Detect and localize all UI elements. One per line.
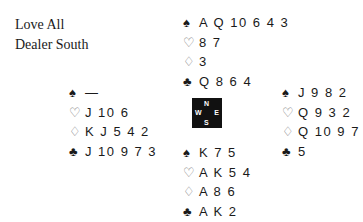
spade-icon: ♠ [183, 143, 199, 163]
vulnerability-label: Love All [15, 15, 88, 35]
club-icon: ♣ [69, 142, 85, 162]
south-hand: ♠K 7 5 ♡A K 5 4 ♢A 8 6 ♣A K 2 [183, 143, 251, 221]
east-hand: ♠J 9 8 2 ♡Q 9 3 2 ♢Q 10 9 7 ♣5 [282, 83, 360, 161]
spade-icon: ♠ [282, 83, 298, 103]
east-hearts: ♡Q 9 3 2 [282, 103, 360, 123]
east-diamonds: ♢Q 10 9 7 [282, 122, 360, 142]
south-hearts: ♡A K 5 4 [183, 163, 251, 183]
spade-icon: ♠ [183, 13, 199, 33]
spade-icon: ♠ [69, 83, 85, 103]
north-hand: ♠A Q 10 6 4 3 ♡8 7 ♢3 ♣Q 8 6 4 [183, 13, 289, 91]
dealer-label: Dealer South [15, 35, 88, 55]
diamond-icon: ♢ [183, 182, 199, 202]
deal-info: Love All Dealer South [15, 15, 88, 55]
south-diamonds: ♢A 8 6 [183, 182, 251, 202]
compass-west: W [195, 109, 202, 116]
west-diamonds: ♢K J 5 4 2 [69, 122, 157, 142]
compass-north: N [204, 100, 209, 107]
diamond-icon: ♢ [183, 52, 199, 72]
compass-east: E [214, 109, 219, 116]
compass-south: S [204, 119, 209, 126]
club-icon: ♣ [183, 202, 199, 222]
heart-icon: ♡ [282, 103, 298, 123]
heart-icon: ♡ [69, 103, 85, 123]
east-clubs: ♣5 [282, 142, 360, 162]
north-hearts: ♡8 7 [183, 33, 289, 53]
heart-icon: ♡ [183, 33, 199, 53]
west-clubs: ♣J 10 9 7 3 [69, 142, 157, 162]
north-clubs: ♣Q 8 6 4 [183, 72, 289, 92]
south-spades: ♠K 7 5 [183, 143, 251, 163]
south-clubs: ♣A K 2 [183, 202, 251, 222]
diamond-icon: ♢ [282, 122, 298, 142]
north-spades: ♠A Q 10 6 4 3 [183, 13, 289, 33]
west-hand: ♠— ♡J 10 6 ♢K J 5 4 2 ♣J 10 9 7 3 [69, 83, 157, 161]
heart-icon: ♡ [183, 163, 199, 183]
club-icon: ♣ [282, 142, 298, 162]
east-spades: ♠J 9 8 2 [282, 83, 360, 103]
diamond-icon: ♢ [69, 122, 85, 142]
club-icon: ♣ [183, 72, 199, 92]
west-hearts: ♡J 10 6 [69, 103, 157, 123]
west-spades: ♠— [69, 83, 157, 103]
compass-box: N W E S [192, 98, 222, 128]
north-diamonds: ♢3 [183, 52, 289, 72]
